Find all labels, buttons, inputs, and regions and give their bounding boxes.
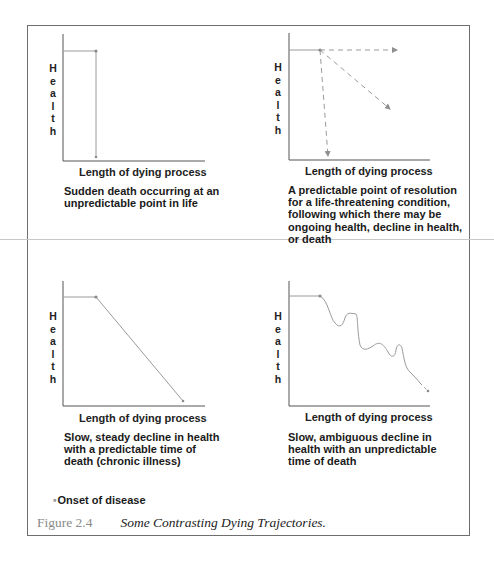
y-axis-label: Health (272, 61, 284, 136)
onset-dot-icon: • (53, 495, 57, 506)
caption-sudden-death: Sudden death occurring at an unpredictab… (64, 185, 219, 209)
end-dot (95, 156, 98, 159)
wavy-trajectory (320, 296, 420, 383)
plot-steady-decline (63, 281, 205, 406)
caption-predictable-resolution: A predictable point of resolution for a … (288, 184, 462, 245)
plot-predictable-resolution (289, 33, 430, 160)
onset-dot (318, 294, 321, 297)
legend: •Onset of disease (53, 494, 146, 506)
plot-sudden-death (63, 34, 205, 161)
trajectory-tail (420, 383, 427, 390)
trajectory-line (96, 297, 183, 401)
y-axis-label: Health (47, 62, 59, 137)
x-axis-label: Length of dying process (305, 165, 433, 177)
onset-dot (318, 48, 321, 51)
figure-number: Figure 2.4 (37, 515, 93, 530)
onset-dot (94, 49, 97, 52)
onset-dot (94, 295, 97, 298)
trajectory-plots (0, 0, 494, 565)
x-axis-label: Length of dying process (79, 166, 207, 178)
y-axis-label: Health (272, 310, 284, 385)
caption-steady-decline: Slow, steady decline in health with a pr… (64, 431, 219, 468)
x-axis-label: Length of dying process (305, 411, 433, 423)
decline-arrow (320, 50, 390, 109)
end-dot (427, 390, 430, 393)
death-arrow (320, 50, 328, 156)
legend-label: Onset of disease (58, 494, 146, 506)
end-dot (182, 400, 185, 403)
figure-caption: Figure 2.4Some Contrasting Dying Traject… (37, 515, 326, 531)
x-axis-label: Length of dying process (79, 412, 207, 424)
y-axis-label: Health (47, 310, 59, 385)
plot-ambiguous-decline (289, 281, 430, 406)
figure-title: Some Contrasting Dying Trajectories. (121, 515, 327, 530)
caption-ambiguous-decline: Slow, ambiguous decline in health with a… (288, 431, 437, 468)
